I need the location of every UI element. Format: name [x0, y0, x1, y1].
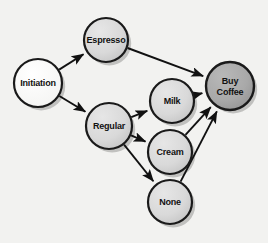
node-cream[interactable]: Cream: [148, 130, 192, 174]
edge-regular-milk: [131, 111, 147, 117]
directed-graph: InitiationEspressoRegularMilkCreamNoneBu…: [0, 0, 268, 243]
node-initiation[interactable]: Initiation: [14, 59, 62, 107]
diagram-canvas: InitiationEspressoRegularMilkCreamNoneBu…: [0, 0, 268, 243]
node-label-espresso: Espresso: [87, 35, 127, 45]
edge-milk-buy_coffee: [194, 93, 202, 95]
edge-espresso-buy_coffee: [128, 48, 204, 76]
node-label-regular: Regular: [93, 121, 126, 131]
node-label-buy_coffee: Coffee: [217, 87, 244, 97]
node-label-none: None: [159, 197, 181, 207]
node-label-buy_coffee: Buy: [222, 76, 239, 86]
node-espresso[interactable]: Espresso: [84, 18, 128, 62]
edge-initiation-espresso: [59, 54, 83, 69]
node-label-milk: Milk: [164, 96, 182, 106]
node-milk[interactable]: Milk: [150, 79, 194, 123]
node-label-initiation: Initiation: [20, 78, 56, 88]
node-none[interactable]: None: [148, 180, 192, 224]
node-buy_coffee[interactable]: BuyCoffee: [206, 62, 254, 110]
node-label-cream: Cream: [156, 147, 183, 157]
node-regular[interactable]: Regular: [86, 103, 132, 149]
node-layer: InitiationEspressoRegularMilkCreamNoneBu…: [14, 18, 254, 224]
edge-initiation-regular: [59, 96, 85, 112]
